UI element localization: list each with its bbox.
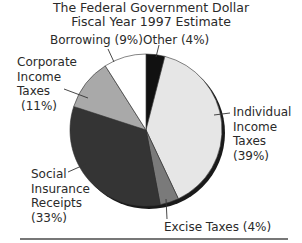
label-line: Income bbox=[233, 120, 291, 135]
label-borrowing: Borrowing (9%) bbox=[50, 33, 143, 48]
label-line: Taxes bbox=[233, 134, 291, 149]
label-line: Receipts bbox=[31, 196, 90, 211]
label-line: Corporate bbox=[17, 55, 77, 70]
label-line: Taxes bbox=[17, 84, 77, 99]
label-individual: Individual Income Taxes (39%) bbox=[233, 105, 291, 163]
bottom-divider bbox=[20, 238, 288, 240]
label-excise: Excise Taxes (4%) bbox=[164, 220, 271, 235]
label-other: Other (4%) bbox=[143, 33, 209, 48]
borrowing-leader-line bbox=[108, 49, 114, 62]
label-line: (39%) bbox=[233, 149, 291, 164]
label-line: Insurance bbox=[31, 182, 90, 197]
label-social: Social Insurance Receipts (33%) bbox=[31, 167, 90, 225]
label-line: Individual bbox=[233, 105, 291, 120]
label-line: Income bbox=[17, 70, 77, 85]
label-line: (11%) bbox=[17, 99, 77, 114]
pie-slices bbox=[70, 54, 222, 206]
label-corporate: Corporate Income Taxes (11%) bbox=[17, 55, 77, 113]
label-line: (33%) bbox=[31, 211, 90, 226]
label-line: Social bbox=[31, 167, 90, 182]
